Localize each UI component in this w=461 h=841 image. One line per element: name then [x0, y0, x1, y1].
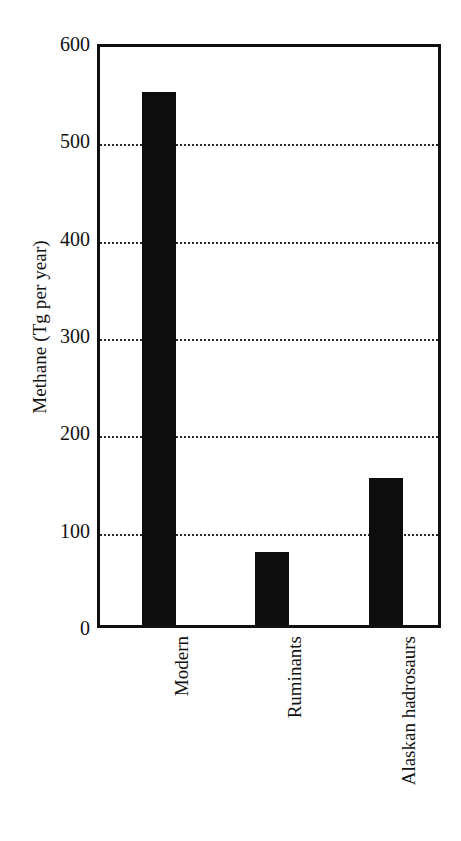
bar — [142, 92, 176, 625]
y-axis-tick-label: 100 — [44, 519, 90, 543]
y-axis-title: Methane (Tg per year) — [25, 207, 55, 447]
y-axis-tick-label: 0 — [44, 616, 90, 640]
chart-figure: Methane (Tg per year) 010020030040050060… — [0, 0, 461, 841]
plot-area — [97, 44, 441, 628]
x-axis-tick-label: Alaskan hadrosaurs — [396, 636, 422, 785]
x-axis-tick-label: Ruminants — [282, 636, 308, 718]
x-axis-tick-label: Modern — [169, 636, 195, 696]
plot-inner — [100, 47, 438, 625]
y-axis-tick-label: 600 — [44, 32, 90, 56]
y-axis-tick-label: 500 — [44, 129, 90, 153]
bar — [255, 552, 289, 625]
bar — [369, 478, 403, 625]
